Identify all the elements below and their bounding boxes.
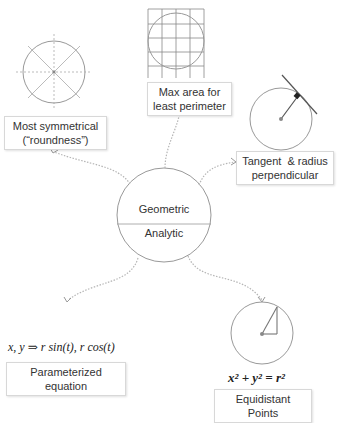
node-parametric: Parameterized equation xyxy=(6,362,126,396)
connector-symmetry xyxy=(54,152,130,184)
grid-circle-icon xyxy=(148,9,204,78)
node-tangent-line2: perpendicular xyxy=(241,168,329,182)
node-equidistant-line1: Equidistant Points xyxy=(219,392,307,420)
equidistant-formula: x² + y² = r² xyxy=(228,370,285,386)
connector-tangent xyxy=(199,162,235,185)
node-max-area: Max area for least perimeter xyxy=(147,82,232,116)
arrow-icon xyxy=(64,297,71,302)
node-symmetry-line2: (“roundness”) xyxy=(9,133,102,147)
tangent-circle-icon xyxy=(250,75,317,150)
center-bottom-label: Analytic xyxy=(117,227,211,239)
connector-max-area xyxy=(165,108,180,168)
node-symmetry-line1: Most symmetrical xyxy=(9,119,102,133)
connector-parametric xyxy=(68,258,138,300)
node-parametric-line1: Parameterized equation xyxy=(11,365,121,393)
node-tangent-line1: Tangent & radius xyxy=(241,154,329,168)
node-max-area-line2: least perimeter xyxy=(152,99,227,113)
center-circle xyxy=(117,168,211,262)
node-symmetry: Most symmetrical (“roundness”) xyxy=(4,116,107,150)
parametric-formula: x, y ⇒ r sin(t), r cos(t) xyxy=(8,340,115,355)
node-tangent: Tangent & radius perpendicular xyxy=(236,151,334,185)
connector-equidistant xyxy=(188,256,262,300)
node-equidistant: Equidistant Points xyxy=(214,389,312,423)
equidistant-circle-icon xyxy=(231,302,293,364)
node-max-area-line1: Max area for xyxy=(152,85,227,99)
symmetry-circle-icon xyxy=(16,34,92,110)
center-top-label: Geometric xyxy=(117,203,211,215)
